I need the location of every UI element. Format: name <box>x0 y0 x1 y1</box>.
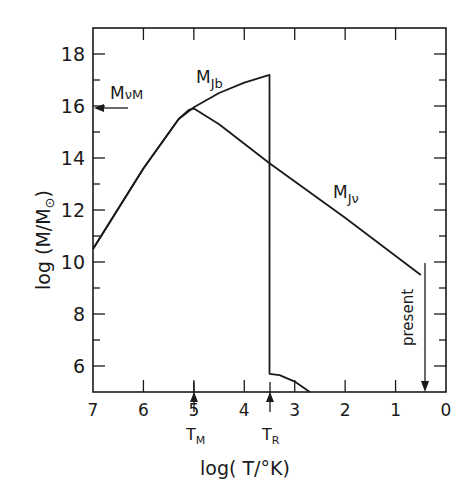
curve-m-jb <box>93 75 310 392</box>
label-present: present <box>399 289 417 346</box>
y-tick-label: 6 <box>73 355 85 377</box>
x-tick-label: 4 <box>239 400 250 420</box>
x-tick-label: 0 <box>441 400 452 420</box>
y-tick-label: 12 <box>61 199 85 221</box>
x-tick-label: 6 <box>138 400 149 420</box>
y-tick-label: 18 <box>61 43 85 65</box>
label-t-r: TR <box>261 425 280 447</box>
present-arrow <box>421 263 429 392</box>
label-m-vm: MνM <box>110 83 143 103</box>
label-m-jv: MJν <box>333 182 359 206</box>
label-t-m: TM <box>185 425 205 447</box>
label-m-jb: MJb <box>196 67 223 91</box>
y-tick-label: 8 <box>73 303 85 325</box>
curve-m-jv <box>93 109 421 275</box>
y-axis-label: log (M/M⊙) <box>32 190 57 290</box>
x-tick-label: 3 <box>289 400 300 420</box>
x-tick-label: 7 <box>88 400 99 420</box>
t-r-arrow <box>266 382 274 412</box>
x-tick-label: 1 <box>390 400 401 420</box>
y-tick-label: 14 <box>61 147 85 169</box>
y-tick-label: 10 <box>61 251 85 273</box>
x-axis-label: log( T/°K) <box>200 457 290 479</box>
chart: 76543210681012141618 MJb MJν MνM TM TR p… <box>0 0 471 502</box>
m-vm-arrow <box>94 104 128 112</box>
x-tick-label: 2 <box>340 400 351 420</box>
y-tick-label: 16 <box>61 95 85 117</box>
